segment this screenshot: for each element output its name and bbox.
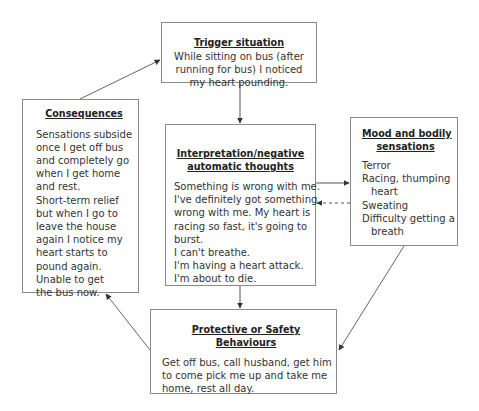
- text-line: once I get off bus: [36, 141, 132, 154]
- text-line: to come pick me up and take me: [162, 369, 330, 382]
- text-line: Difficulty getting a: [362, 212, 453, 225]
- text-line: I'm having a heart attack.: [174, 259, 311, 272]
- arrow-mood-to-protective: [339, 246, 404, 350]
- protective-text: Get off bus, call husband, get him to co…: [162, 356, 330, 396]
- text-line: and completely go: [36, 154, 132, 167]
- consequences-title: Consequences: [36, 108, 132, 121]
- trigger-situation-box: Trigger situation While sitting on bus (…: [161, 22, 317, 83]
- protective-title: Protective or Safety Behaviours: [162, 324, 330, 349]
- interpretation-box: Interpretation/negative automatic though…: [165, 124, 316, 286]
- text-line: when I get home: [36, 167, 132, 180]
- text-line: the bus now.: [36, 286, 132, 299]
- protective-safety-behaviours-box: Protective or Safety Behaviours Get off …: [150, 309, 337, 394]
- consequences-box: Consequences Sensations subside once I g…: [22, 99, 139, 293]
- consequences-text: Sensations subside once I get off bus an…: [36, 128, 132, 300]
- text-line: Unable to get: [36, 273, 132, 286]
- text-line: heart starts to: [36, 246, 132, 259]
- text-line: and rest.: [36, 180, 132, 193]
- text-line: racing so fast, it's going to: [174, 220, 311, 233]
- trigger-title: Trigger situation: [162, 37, 316, 50]
- text-line: but when I go to: [36, 207, 132, 220]
- text-line: pound again.: [36, 260, 132, 273]
- title-line: Interpretation/negative: [174, 148, 307, 161]
- text-line: running for bus) I noticed: [162, 63, 316, 76]
- arrow-protective-to-consequences: [106, 294, 150, 350]
- text-line: I'm about to die.: [174, 272, 311, 285]
- text-line: wrong with me. My heart is: [174, 206, 311, 219]
- interpretation-text: Something is wrong with me. I've definit…: [174, 180, 311, 286]
- text-line: While sitting on bus (after: [162, 50, 316, 63]
- text-line: Get off bus, call husband, get him: [162, 356, 330, 369]
- text-line: heart: [362, 185, 453, 198]
- text-line: Sensations subside: [36, 128, 132, 141]
- title-line: automatic thoughts: [174, 161, 307, 174]
- text-line: my heart pounding.: [162, 76, 316, 89]
- text-line: Sweating: [362, 199, 453, 212]
- text-line: leave the house: [36, 220, 132, 233]
- interpretation-title: Interpretation/negative automatic though…: [174, 148, 311, 173]
- text-line: home, rest all day.: [162, 382, 330, 395]
- text-line: again I notice my: [36, 233, 132, 246]
- text-line: Terror: [362, 159, 453, 172]
- text-line: Short-term relief: [36, 194, 132, 207]
- text-line: Something is wrong with me.: [174, 180, 311, 193]
- arrow-consequences-to-trigger: [80, 60, 160, 99]
- title-line: sensations: [362, 141, 449, 154]
- text-line: I can't breathe.: [174, 246, 311, 259]
- text-line: Racing, thumping: [362, 172, 453, 185]
- text-line: I've definitely got something: [174, 193, 311, 206]
- text-line: breath: [362, 225, 453, 238]
- mood-text: Terror Racing, thumping heart Sweating D…: [362, 159, 453, 238]
- mood-title: Mood and bodily sensations: [362, 128, 453, 153]
- mood-bodily-sensations-box: Mood and bodily sensations Terror Racing…: [350, 117, 458, 246]
- text-line: burst.: [174, 233, 311, 246]
- trigger-text: While sitting on bus (after running for …: [162, 50, 316, 90]
- title-line: Mood and bodily: [362, 128, 449, 141]
